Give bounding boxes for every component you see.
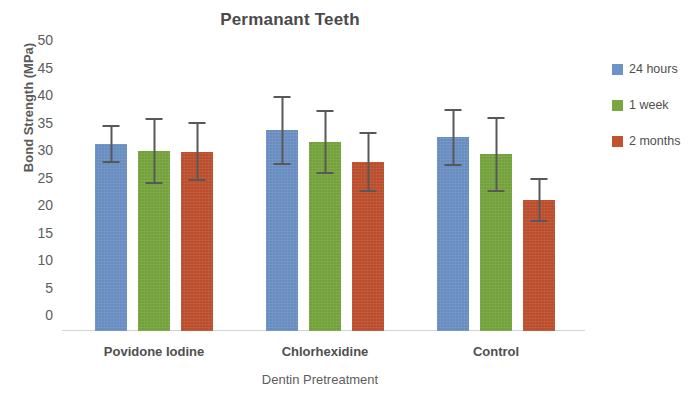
- y-axis-tick-0: 0: [45, 307, 53, 323]
- x-axis-title: Dentin Pretreatment: [60, 372, 580, 387]
- bar-2-months-povidone-iodine[interactable]: [181, 56, 213, 331]
- error-bar: [360, 132, 377, 193]
- error-bar-stem: [153, 118, 155, 184]
- plot-area: 50454035302520151050: [62, 56, 585, 335]
- error-bar-stem: [110, 125, 112, 164]
- error-bar-cap-lower: [445, 164, 462, 166]
- bar-24-hours-povidone-iodine[interactable]: [95, 56, 127, 331]
- y-axis-tick-50: 50: [37, 32, 53, 48]
- error-bar: [531, 178, 548, 222]
- error-bar-cap-lower: [103, 161, 120, 163]
- error-bar: [189, 122, 206, 181]
- bar-rect: [437, 137, 469, 331]
- bar-1-week-povidone-iodine[interactable]: [138, 56, 170, 331]
- bar-2-months-chlorhexidine[interactable]: [352, 56, 384, 331]
- error-bar-stem: [196, 122, 198, 181]
- legend-label: 24 hours: [629, 62, 678, 76]
- error-bar-cap-lower: [146, 182, 163, 184]
- y-axis-tick-15: 15: [37, 225, 53, 241]
- legend-label: 1 week: [629, 98, 669, 112]
- bar-24-hours-control[interactable]: [437, 56, 469, 331]
- legend-item-2-months[interactable]: 2 months: [612, 134, 695, 148]
- error-bar: [488, 117, 505, 192]
- error-bar: [317, 110, 334, 174]
- error-bar-stem: [367, 132, 369, 193]
- legend-swatch-icon: [612, 64, 623, 75]
- x-label-control: Control: [473, 344, 519, 359]
- error-bar-stem: [495, 117, 497, 192]
- y-axis-tick-40: 40: [37, 87, 53, 103]
- error-bar-cap-lower: [274, 163, 291, 165]
- error-bar-cap-lower: [189, 179, 206, 181]
- legend-item-24-hours[interactable]: 24 hours: [612, 62, 695, 76]
- y-axis-tick-10: 10: [37, 252, 53, 268]
- error-bar-cap-lower: [488, 190, 505, 192]
- bar-24-hours-chlorhexidine[interactable]: [266, 56, 298, 331]
- error-bar-stem: [452, 109, 454, 166]
- legend-swatch-icon: [612, 136, 623, 147]
- error-bar-stem: [538, 178, 540, 222]
- error-bar: [103, 125, 120, 164]
- bar-chart: Permanant Teeth Bond Strength (MPa) 5045…: [0, 0, 695, 394]
- y-axis-tick-45: 45: [37, 60, 53, 76]
- y-axis-tick-35: 35: [37, 115, 53, 131]
- y-axis-tick-5: 5: [45, 280, 53, 296]
- error-bar: [445, 109, 462, 166]
- chart-title: Permanant Teeth: [0, 10, 580, 30]
- error-bar-cap-lower: [531, 220, 548, 222]
- bar-2-months-control[interactable]: [523, 56, 555, 331]
- bar-rect: [95, 144, 127, 331]
- error-bar: [274, 96, 291, 165]
- x-label-chlorhexidine: Chlorhexidine: [282, 344, 369, 359]
- legend-label: 2 months: [629, 134, 680, 148]
- bar-1-week-control[interactable]: [480, 56, 512, 331]
- error-bar-stem: [324, 110, 326, 174]
- x-label-povidone-iodine: Povidone Iodine: [104, 344, 204, 359]
- error-bar: [146, 118, 163, 184]
- y-axis-tick-30: 30: [37, 142, 53, 158]
- error-bar-cap-lower: [360, 190, 377, 192]
- y-axis-tick-25: 25: [37, 170, 53, 186]
- bar-1-week-chlorhexidine[interactable]: [309, 56, 341, 331]
- legend-item-1-week[interactable]: 1 week: [612, 98, 695, 112]
- error-bar-cap-lower: [317, 172, 334, 174]
- error-bar-stem: [281, 96, 283, 165]
- legend: 24 hours1 week2 months: [612, 62, 695, 170]
- y-axis-title: Bond Strength (MPa): [21, 8, 36, 208]
- legend-swatch-icon: [612, 100, 623, 111]
- y-axis-tick-20: 20: [37, 197, 53, 213]
